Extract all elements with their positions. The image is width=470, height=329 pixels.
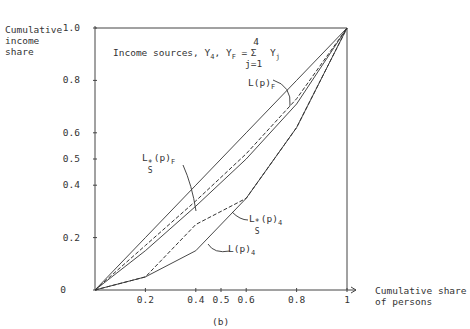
y-tick-label: 0.5	[63, 153, 80, 164]
curves	[95, 28, 347, 290]
x-tick-label: 0.8	[288, 294, 305, 305]
figure-caption: (b)	[212, 316, 229, 327]
y-tick-label: 0.4	[63, 179, 80, 190]
label-lp-f: L(p)F	[248, 77, 275, 93]
x-axis-label: Cumulative share of persons	[375, 285, 467, 307]
x-tick-label: 0.6	[238, 294, 255, 305]
tick-labels: 0.20.40.50.60.8100.20.40.50.60.81.0	[60, 22, 350, 305]
x-tick-label: 1	[344, 294, 350, 305]
label-ls-4: L*S(p)4	[249, 213, 282, 229]
axes	[95, 26, 356, 293]
x-tick-label: 0.4	[187, 294, 204, 305]
label-lp-4: L(p)4	[228, 243, 255, 259]
chart-title: Income sources, Y4, YF =	[113, 47, 247, 63]
y-tick-label: 0	[60, 284, 66, 295]
curve-equality-line	[95, 28, 347, 290]
sum-notation: 4 Σ j=1	[245, 36, 262, 69]
y-tick-label: 0.2	[63, 232, 80, 243]
label-ls-f: L*S(p)F	[142, 152, 175, 168]
x-tick-label: 0.5	[212, 294, 229, 305]
y-tick-label: 0.8	[63, 74, 80, 85]
y-axis-label: Cumulative income share	[5, 24, 62, 57]
x-tick-label: 0.2	[137, 294, 154, 305]
y-tick-label: 0.6	[63, 127, 80, 138]
y-tick-label: 1.0	[63, 22, 80, 33]
sum-term: Yj	[270, 47, 280, 63]
